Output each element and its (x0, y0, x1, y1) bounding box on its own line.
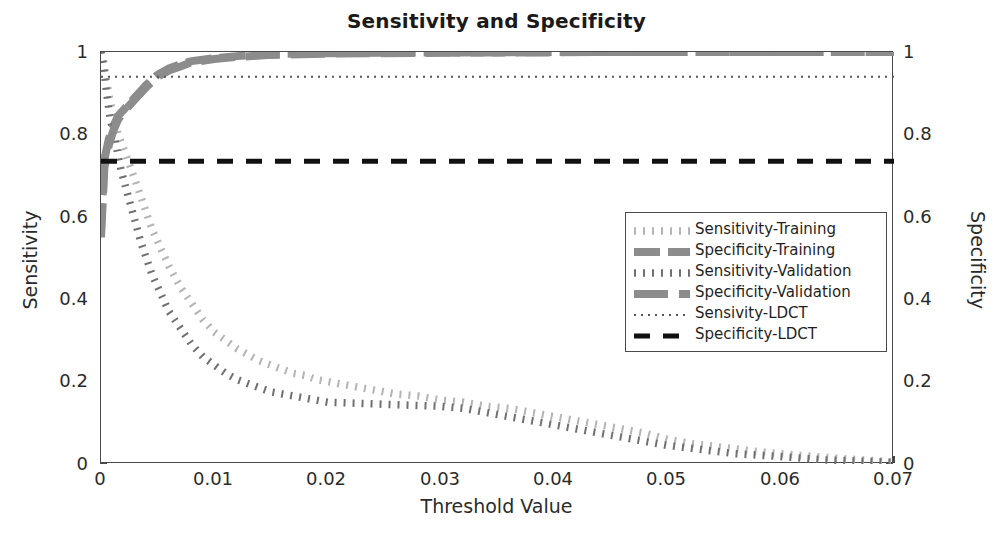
legend-swatch-specificity-validation (633, 286, 691, 300)
legend-swatch-specificity-ldct (633, 328, 691, 342)
legend-label: Sensitivity-Validation (695, 264, 851, 279)
legend-label: Sensitivity-Training (695, 222, 836, 237)
ytick-label-left: 0.4 (42, 290, 88, 308)
legend-label: Specificity-Training (695, 243, 835, 258)
series-specificity-validation (101, 52, 894, 237)
y-axis-label-right: Specificity (967, 160, 989, 360)
xtick-label: 0 (60, 470, 140, 488)
xtick-label: 0.06 (740, 470, 820, 488)
xtick-label: 0.04 (513, 470, 593, 488)
ytick-label-left: 0.6 (42, 208, 88, 226)
legend-swatch-specificity-training (633, 244, 691, 258)
series-specificity-training (101, 52, 894, 229)
ytick-label-right: 0.8 (903, 125, 963, 143)
legend-item[interactable]: Sensivity-LDCT (633, 303, 879, 324)
legend-swatch-sensivity-ldct (633, 307, 691, 321)
legend-item[interactable]: Sensitivity-Validation (633, 261, 879, 282)
x-axis-label: Threshold Value (0, 495, 993, 517)
xtick-label: 0.03 (400, 470, 480, 488)
xtick-label: 0.02 (286, 470, 366, 488)
ytick-label-right: 0.4 (903, 290, 963, 308)
ytick-label-right: 0.2 (903, 372, 963, 390)
figure-canvas: Sensitivity and Specificity 1 0.8 0.6 0.… (0, 0, 993, 539)
legend-label: Sensivity-LDCT (695, 306, 808, 321)
legend-item[interactable]: Specificity-Validation (633, 282, 879, 303)
xtick-label: 0.01 (173, 470, 253, 488)
legend-item[interactable]: Specificity-Training (633, 240, 879, 261)
legend-label: Specificity-LDCT (695, 327, 817, 342)
legend-box: Sensitivity-Training Specificity-Trainin… (625, 212, 887, 352)
ytick-label-left: 0.8 (42, 125, 88, 143)
ytick-label-right: 0.6 (903, 208, 963, 226)
chart-title: Sensitivity and Specificity (0, 9, 993, 33)
ytick-label-left: 0.2 (42, 372, 88, 390)
legend-label: Specificity-Validation (695, 285, 851, 300)
legend-item[interactable]: Specificity-LDCT (633, 324, 879, 345)
xtick-label: 0.05 (626, 470, 706, 488)
legend-swatch-sensitivity-training (633, 223, 691, 237)
ytick-label-left: 1 (42, 43, 88, 61)
legend-item[interactable]: Sensitivity-Training (633, 219, 879, 240)
y-axis-label-left: Sensitivity (19, 160, 41, 360)
xtick-label: 0.07 (853, 470, 933, 488)
legend-swatch-sensitivity-validation (633, 265, 691, 279)
ytick-label-right: 1 (903, 43, 963, 61)
